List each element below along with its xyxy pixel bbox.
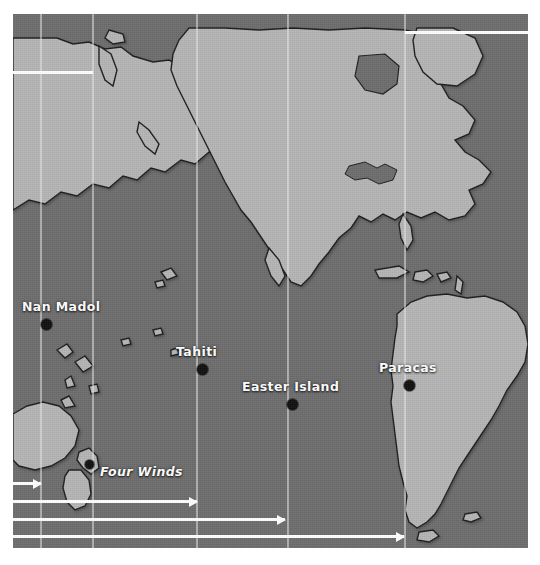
site-label-easter-island: Easter Island [242, 379, 339, 394]
site-marker-easter-island[interactable] [287, 399, 298, 410]
site-marker-nan-madol[interactable] [41, 319, 52, 330]
site-marker-tahiti[interactable] [197, 364, 208, 375]
site-layer: Nan Madol Tahiti Easter Island Paracas F… [13, 14, 528, 548]
site-label-nan-madol: Nan Madol [22, 299, 100, 314]
site-label-tahiti: Tahiti [176, 344, 217, 359]
site-marker-four-winds[interactable] [85, 460, 94, 469]
site-label-paracas: Paracas [379, 360, 437, 375]
site-marker-paracas[interactable] [404, 380, 415, 391]
map-figure: Nan Madol Tahiti Easter Island Paracas F… [13, 14, 528, 548]
site-label-four-winds: Four Winds [100, 464, 183, 479]
